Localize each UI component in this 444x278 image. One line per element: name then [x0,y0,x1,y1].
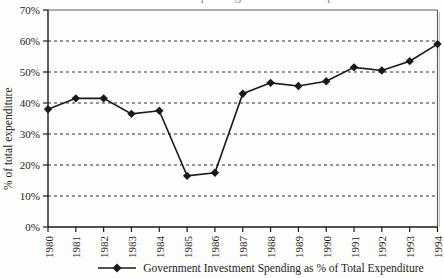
legend-label: Government Investment Spending as % of T… [143,262,423,274]
data-point-1983 [127,110,135,118]
legend: Government Investment Spending as % of T… [0,258,444,278]
x-tick-label-1980: 1980 [43,236,55,259]
data-point-1980 [44,105,52,113]
y-tick-label-30pct: 30% [20,128,40,140]
data-point-1985 [183,172,191,180]
x-tick-label-1993: 1993 [404,236,416,259]
x-tick-label-1987: 1987 [237,236,249,259]
y-tick-label-10pct: 10% [20,190,40,202]
data-point-1992 [378,66,386,74]
data-point-1984 [155,107,163,115]
data-line [48,44,438,176]
data-point-1990 [322,77,330,85]
data-point-1991 [350,63,358,71]
y-tick-label-50pct: 50% [20,66,40,78]
data-point-1989 [294,82,302,90]
x-tick-label-1994: 1994 [432,236,444,259]
y-tick-label-20pct: 20% [20,159,40,171]
y-tick-label-40pct: 40% [20,97,40,109]
x-tick-label-1985: 1985 [182,236,194,259]
x-tick-label-1981: 1981 [70,236,82,258]
data-point-1981 [72,94,80,102]
data-point-1986 [211,169,219,177]
x-tick-label-1990: 1990 [321,236,333,259]
legend-marker [98,263,136,273]
data-point-1988 [266,79,274,87]
y-tick-label-60pct: 60% [20,35,40,47]
x-tick-label-1992: 1992 [376,236,388,258]
y-tick-label-0pct: 0% [25,221,40,233]
x-tick-label-1984: 1984 [154,236,166,259]
x-tick-label-1983: 1983 [126,236,138,259]
x-tick-label-1986: 1986 [209,236,221,259]
legend-diamond-icon [113,264,122,273]
chart-figure: Government Investment Spending as % of T… [0,0,444,278]
x-tick-label-1989: 1989 [293,236,305,259]
chart-canvas: 0%10%20%30%40%50%60%70%19801981198219831… [0,0,444,258]
y-tick-label-70pct: 70% [20,4,40,16]
x-tick-label-1988: 1988 [265,236,277,259]
data-point-1982 [99,94,107,102]
x-tick-label-1982: 1982 [98,236,110,258]
data-point-1993 [405,57,413,65]
data-point-1987 [239,90,247,98]
x-tick-label-1991: 1991 [349,236,361,258]
